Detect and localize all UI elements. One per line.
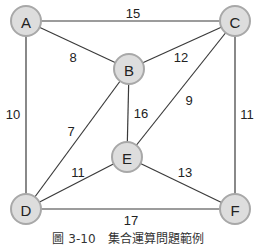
edge-weight-B-C: 12: [174, 50, 188, 65]
edge-weight-A-C: 15: [126, 6, 140, 21]
edge-C-E: [127, 21, 235, 157]
edge-B-D: [26, 69, 129, 209]
node-E: E: [112, 142, 142, 172]
node-B: B: [114, 54, 144, 84]
node-label: C: [230, 14, 241, 31]
edge-weight-C-F: 11: [240, 107, 254, 122]
edge-weight-C-E: 9: [185, 93, 192, 108]
edge-weight-A-D: 10: [6, 107, 20, 122]
node-C: C: [220, 6, 250, 36]
node-A: A: [11, 6, 41, 36]
node-F: F: [220, 194, 250, 224]
node-label: B: [124, 62, 134, 79]
node-label: A: [21, 14, 31, 31]
edge-weight-B-D: 7: [67, 124, 74, 139]
node-label: F: [230, 202, 239, 219]
node-D: D: [11, 194, 41, 224]
edge-weight-B-E: 16: [134, 106, 148, 121]
edge-weight-D-F: 17: [124, 213, 138, 228]
node-label: D: [21, 202, 32, 219]
figure-caption: 圖 3-10 集合運算問題範例: [0, 229, 256, 246]
edge-weight-D-E: 11: [71, 165, 85, 180]
edge-weight-E-F: 13: [178, 165, 192, 180]
edge-weight-A-B: 8: [69, 50, 76, 65]
node-label: E: [122, 150, 132, 167]
edge-A-B: [26, 21, 129, 69]
